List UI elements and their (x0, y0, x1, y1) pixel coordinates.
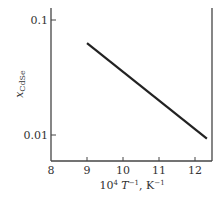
chart: 891011120.10.01 xCdSe 104 T−1, K−1 (0, 0, 224, 198)
x-axis-label-base: 10 (99, 179, 113, 192)
series (87, 43, 207, 139)
y-tick-label-0.01: 0.01 (24, 129, 49, 142)
ticks: 891011120.10.01 (24, 14, 203, 177)
x-axis-label-var-exp: −1 (129, 179, 139, 187)
series-line-0 (87, 43, 207, 139)
x-axis-label-unit-exp: −1 (154, 179, 164, 187)
x-tick-label-10: 10 (116, 164, 130, 177)
x-axis-label-unit: , K (139, 179, 155, 192)
y-axis-label: xCdSe (13, 70, 27, 98)
y-axis-label-sub: CdSe (18, 70, 27, 92)
x-tick-label-11: 11 (152, 164, 166, 177)
x-axis-label: 104 T−1, K−1 (99, 179, 164, 192)
y-tick-label-0.1: 0.1 (31, 14, 49, 27)
axes (51, 8, 212, 161)
x-tick-label-8: 8 (48, 164, 55, 177)
x-tick-label-9: 9 (84, 164, 91, 177)
x-tick-label-12: 12 (188, 164, 202, 177)
